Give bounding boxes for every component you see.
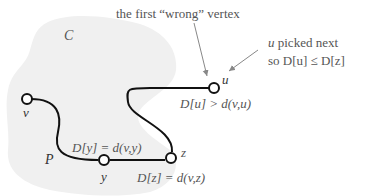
cloud-region-c bbox=[7, 16, 177, 196]
node-z bbox=[166, 153, 176, 163]
arrow-wrong-vertex bbox=[194, 23, 207, 76]
dijkstra-proof-diagram: C P v y z u D[y] = d(v,y) D[z] = d(v,z) … bbox=[0, 0, 365, 196]
diagram-svg: C P v y z u D[y] = d(v,y) D[z] = d(v,z) … bbox=[0, 0, 365, 196]
annotation-wrong-vertex: the first “wrong” vertex bbox=[116, 6, 240, 21]
node-y-note: D[y] = d(v,y) bbox=[71, 140, 142, 155]
annotation-picked-next: u picked next bbox=[268, 35, 338, 50]
node-u-label: u bbox=[222, 72, 229, 87]
cloud-label-c: C bbox=[64, 28, 74, 43]
node-y bbox=[99, 155, 109, 165]
node-v-label: v bbox=[23, 105, 29, 120]
node-y-label: y bbox=[99, 169, 107, 184]
node-u bbox=[209, 83, 219, 93]
node-u-note: D[u] > d(v,u) bbox=[179, 96, 251, 111]
annotation-picked-rest: picked next bbox=[275, 35, 339, 50]
node-z-note: D[z] = d(v,z) bbox=[136, 170, 205, 185]
annotation-so-inequality: so D[u] ≤ D[z] bbox=[268, 53, 345, 68]
node-v bbox=[22, 94, 32, 104]
node-z-label: z bbox=[180, 145, 186, 160]
arrow-picked-next bbox=[229, 50, 258, 71]
path-label-p: P bbox=[44, 152, 54, 167]
